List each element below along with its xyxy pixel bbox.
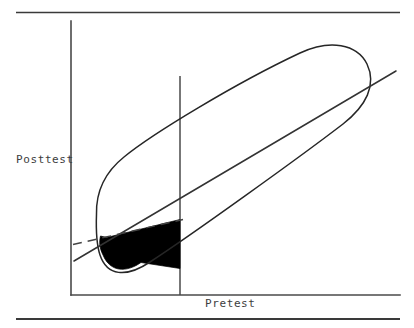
y-axis-label: Posttest bbox=[16, 153, 74, 166]
x-axis-label: Pretest bbox=[205, 297, 256, 310]
figure-root: Posttest Pretest bbox=[0, 0, 414, 328]
shaded-wedge-region bbox=[100, 220, 180, 270]
regression-line bbox=[74, 71, 396, 261]
